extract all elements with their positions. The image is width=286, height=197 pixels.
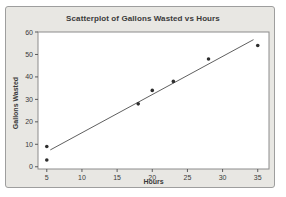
y-axis-tick-label: 10 [25, 141, 33, 148]
data-point [207, 57, 211, 61]
x-axis-tick-label: 25 [184, 174, 192, 181]
data-point [45, 145, 49, 149]
y-axis-tick-label: 60 [25, 29, 33, 36]
y-axis-tick-label: 0 [29, 163, 33, 170]
x-axis-tick-label: 5 [45, 174, 49, 181]
x-axis-tick-label: 20 [148, 174, 156, 181]
x-axis-tick-label: 30 [219, 174, 227, 181]
data-point [150, 89, 154, 93]
data-point [136, 102, 140, 106]
x-axis-tick-label: 15 [113, 174, 121, 181]
x-axis-tick-label: 10 [78, 174, 86, 181]
plot-area [38, 32, 269, 169]
y-axis-tick-label: 50 [25, 51, 33, 58]
y-axis-tick-label: 30 [25, 96, 33, 103]
x-axis-tick-label: 35 [254, 174, 262, 181]
y-axis-tick-label: 20 [25, 118, 33, 125]
screenshot-root: { "chart_data": { "type": "scatter", "ti… [0, 0, 286, 197]
data-point [45, 158, 49, 162]
data-point [172, 80, 176, 84]
y-axis-tick-label: 40 [25, 73, 33, 80]
data-point [256, 44, 260, 48]
scatter-plot-canvas: 51015202530350102030405060 [0, 0, 286, 197]
